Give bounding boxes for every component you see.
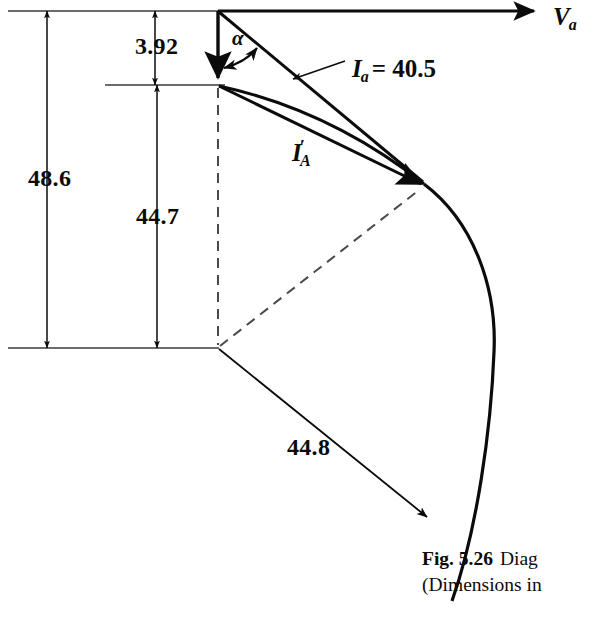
dimension-label-44-8: 44.8 [287, 435, 330, 459]
dimension-label-3-92: 3.92 [135, 34, 178, 58]
ia-prime-vector-line [219, 86, 421, 184]
figure-container: Va α Ia= 40.5 I′A 48.6 3.92 44.7 44.8 Fi… [0, 0, 603, 620]
va-subscript: a [569, 16, 577, 33]
caption-figure-number: Fig. 5.26 [422, 548, 493, 569]
dashed-radius-line [220, 190, 419, 346]
ia-current-label: Ia= 40.5 [352, 56, 436, 85]
caption-text: Diag [500, 548, 538, 569]
caption-line-2: (Dimensions in [422, 572, 603, 598]
ia-value: = 40.5 [372, 55, 436, 82]
main-circle-arc [424, 184, 494, 601]
alpha-angle-label: α [232, 28, 244, 49]
dimension-label-48-6: 48.6 [28, 166, 71, 190]
va-axis-label: Va [553, 4, 577, 33]
radius-dimension-44-8 [219, 349, 427, 517]
alpha-angle-arc [224, 48, 257, 68]
figure-caption: Fig. 5.26Diag (Dimensions in [422, 546, 603, 597]
ia-vector-line [219, 12, 423, 182]
vector-diagram-canvas [0, 0, 603, 620]
va-symbol: V [553, 3, 570, 30]
ia-leader-line [293, 61, 345, 79]
dimension-label-44-7: 44.7 [136, 204, 179, 228]
ia-subscript: a [361, 68, 369, 85]
ia-prime-subscript: A [300, 152, 311, 169]
ia-prime-current-label: I′A [292, 137, 311, 169]
caption-line-1: Fig. 5.26Diag [422, 546, 603, 572]
